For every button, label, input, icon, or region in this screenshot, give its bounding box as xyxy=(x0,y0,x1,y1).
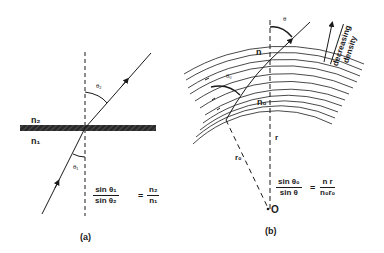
formula-b-rhs-num: n r xyxy=(320,178,334,188)
angle-arc-theta1 xyxy=(73,154,85,157)
refraction-diagram xyxy=(0,0,384,253)
formula-a-rhs-den: n₁ xyxy=(147,196,159,205)
caption-a: (a) xyxy=(80,232,91,242)
label-n0: n₀ xyxy=(257,98,267,107)
label-theta: θ xyxy=(283,16,286,22)
angle-arc-theta2 xyxy=(85,92,107,103)
formula-a-lhs-num: sin θ₁ xyxy=(93,186,118,196)
formula-b-lhs-den: sin θ xyxy=(278,188,300,197)
formula-b-lhs-num: sin θ₀ xyxy=(276,178,302,188)
formula-a-rhs: n₂ n₁ xyxy=(147,186,159,205)
formula-b-rhs: n r n₀r₀ xyxy=(318,178,337,197)
formula-b-equals: = xyxy=(310,183,315,193)
curved-ray xyxy=(226,22,310,120)
label-theta2: θ₂ xyxy=(96,83,102,89)
label-origin: O xyxy=(271,205,279,215)
angle-arc-theta xyxy=(270,27,292,37)
formula-a-rhs-num: n₂ xyxy=(147,186,159,196)
refracted-ray xyxy=(85,53,151,128)
caption-b: (b) xyxy=(265,226,277,236)
label-r: r xyxy=(275,134,278,142)
density-gradient-arrow xyxy=(324,24,332,62)
formula-a-lhs-den: sin θ₂ xyxy=(93,196,119,205)
formula-b-lhs: sin θ₀ sin θ xyxy=(276,178,302,197)
panel-a xyxy=(20,52,156,216)
formula-a-lhs: sin θ₁ sin θ₂ xyxy=(93,186,119,205)
label-n2: n₂ xyxy=(31,116,41,125)
label-n: n xyxy=(256,48,262,57)
label-theta1: θ₁ xyxy=(73,164,78,170)
radius-r0 xyxy=(226,120,268,208)
origin-point xyxy=(267,208,270,211)
label-n1: n₁ xyxy=(31,137,40,146)
formula-b-rhs-den: n₀r₀ xyxy=(318,188,337,197)
label-r0: r₀ xyxy=(235,154,242,162)
label-theta0: θ₀ xyxy=(226,73,232,79)
interface-boundary xyxy=(20,125,156,131)
incident-ray xyxy=(42,128,85,214)
formula-a-equals: = xyxy=(138,191,143,201)
